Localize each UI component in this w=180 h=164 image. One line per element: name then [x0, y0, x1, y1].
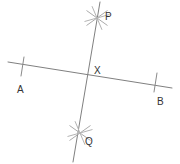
point-label-b: B	[157, 97, 164, 107]
point-label-q: Q	[85, 137, 93, 147]
line-ab	[8, 62, 172, 88]
point-label-p: P	[105, 12, 112, 22]
point-label-a: A	[17, 85, 24, 95]
tick-mark-near-b	[154, 73, 157, 92]
tick-mark-near-a	[21, 57, 24, 76]
geometry-figure: P X A B Q	[0, 0, 180, 164]
point-label-x: X	[94, 66, 101, 76]
